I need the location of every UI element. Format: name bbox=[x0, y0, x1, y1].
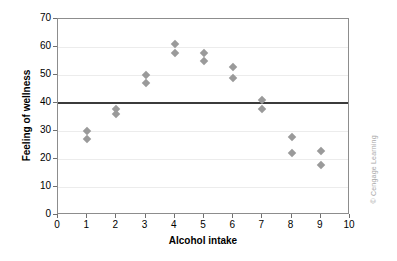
y-tick-label: 60 bbox=[25, 41, 51, 51]
y-tick-mark bbox=[53, 18, 57, 19]
x-tick-mark bbox=[86, 214, 87, 218]
data-point bbox=[171, 48, 179, 56]
y-tick-mark bbox=[53, 186, 57, 187]
x-tick-label: 3 bbox=[133, 219, 157, 230]
y-tick-label: 70 bbox=[25, 13, 51, 23]
y-tick-label: 20 bbox=[25, 153, 51, 163]
data-point bbox=[317, 160, 325, 168]
y-tick-label: 30 bbox=[25, 125, 51, 135]
y-tick-label: 0 bbox=[25, 209, 51, 219]
scatter-plot-figure: Alcohol intake Feeling of wellness © Cen… bbox=[0, 0, 397, 261]
data-point bbox=[317, 146, 325, 154]
x-tick-label: 5 bbox=[191, 219, 215, 230]
x-tick-mark bbox=[320, 214, 321, 218]
x-tick-label: 7 bbox=[249, 219, 273, 230]
y-tick-label: 10 bbox=[25, 181, 51, 191]
x-tick-label: 8 bbox=[279, 219, 303, 230]
y-tick-mark bbox=[53, 158, 57, 159]
x-tick-label: 2 bbox=[103, 219, 127, 230]
copyright-credit: © Cengage Learning bbox=[370, 84, 377, 204]
data-point bbox=[287, 132, 295, 140]
x-tick-mark bbox=[291, 214, 292, 218]
y-tick-mark bbox=[53, 130, 57, 131]
x-axis-title: Alcohol intake bbox=[57, 235, 349, 246]
x-tick-label: 6 bbox=[220, 219, 244, 230]
x-tick-label: 0 bbox=[45, 219, 69, 230]
x-tick-mark bbox=[174, 214, 175, 218]
data-point bbox=[287, 149, 295, 157]
y-tick-mark bbox=[53, 102, 57, 103]
data-point bbox=[83, 135, 91, 143]
data-point bbox=[200, 48, 208, 56]
x-tick-mark bbox=[115, 214, 116, 218]
data-point bbox=[200, 57, 208, 65]
gridline bbox=[58, 187, 348, 188]
x-tick-label: 10 bbox=[337, 219, 361, 230]
data-point bbox=[112, 110, 120, 118]
data-point bbox=[258, 104, 266, 112]
data-point bbox=[141, 79, 149, 87]
y-tick-mark bbox=[53, 46, 57, 47]
x-tick-mark bbox=[57, 214, 58, 218]
reference-line bbox=[58, 102, 348, 104]
x-tick-mark bbox=[349, 214, 350, 218]
gridline bbox=[58, 131, 348, 132]
x-tick-label: 1 bbox=[74, 219, 98, 230]
plot-area bbox=[57, 18, 349, 214]
x-tick-mark bbox=[203, 214, 204, 218]
data-point bbox=[229, 62, 237, 70]
x-tick-label: 9 bbox=[308, 219, 332, 230]
x-tick-mark bbox=[232, 214, 233, 218]
x-tick-label: 4 bbox=[162, 219, 186, 230]
gridline bbox=[58, 159, 348, 160]
y-tick-label: 40 bbox=[25, 97, 51, 107]
gridline bbox=[58, 75, 348, 76]
y-tick-label: 50 bbox=[25, 69, 51, 79]
x-tick-mark bbox=[261, 214, 262, 218]
y-tick-mark bbox=[53, 74, 57, 75]
x-tick-mark bbox=[145, 214, 146, 218]
